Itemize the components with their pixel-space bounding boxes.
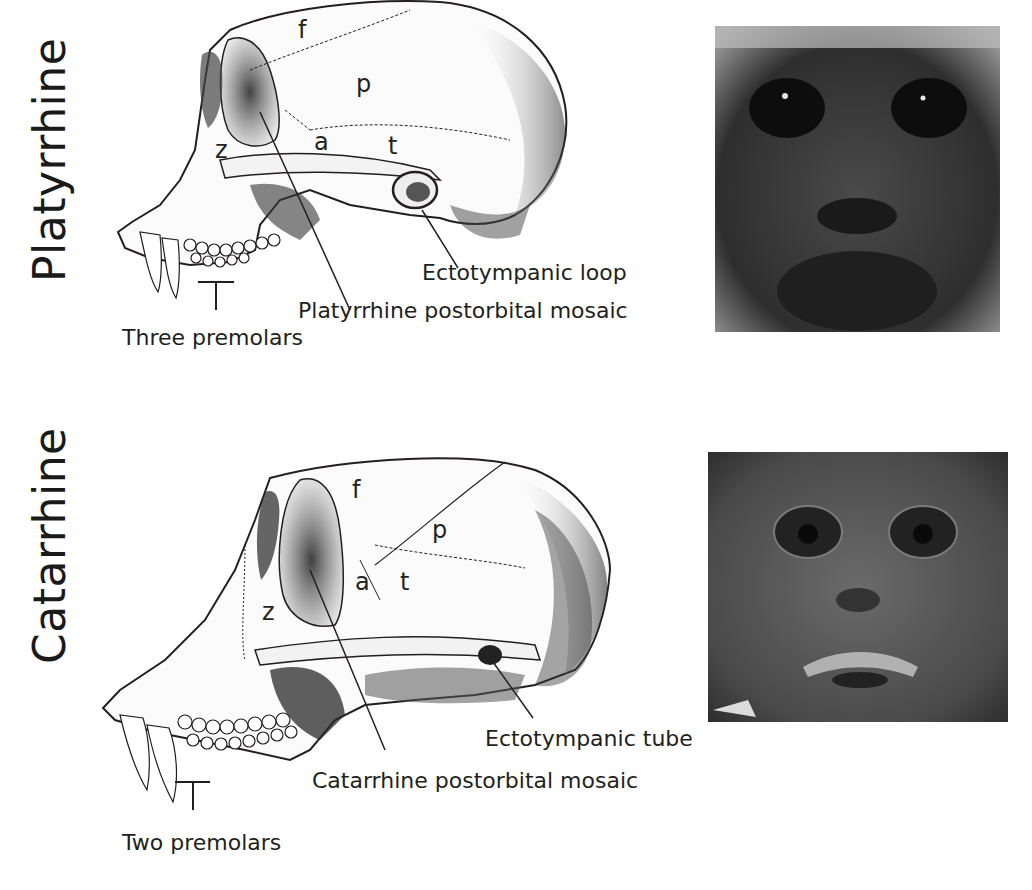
bone-label-parietal: p [356, 72, 371, 96]
bone-label-zygomatic: z [262, 600, 275, 624]
platyrrhine-group-label: Platyrrhine [24, 38, 75, 282]
callout-catarrhine-postorbital-mosaic: Catarrhine postorbital mosaic [312, 770, 638, 792]
platyrrhine-face-photo [715, 26, 1000, 332]
callout-platyrrhine-postorbital-mosaic: Platyrrhine postorbital mosaic [298, 300, 628, 322]
catarrhine-panel: Catarrhine [0, 420, 1032, 890]
platyrrhine-panel: Platyrrhine [0, 0, 1032, 420]
catarrhine-skull-illustration [95, 450, 620, 810]
bone-label-temporal: t [400, 570, 409, 594]
bone-label-zygomatic: z [215, 138, 228, 162]
catarrhine-face-photo [708, 452, 1008, 722]
callout-ectotympanic-loop: Ectotympanic loop [422, 262, 627, 284]
callout-ectotympanic-tube: Ectotympanic tube [485, 728, 693, 750]
bone-label-temporal: t [388, 134, 397, 158]
bone-label-parietal: p [432, 518, 447, 542]
bone-label-alisphenoid: a [355, 570, 370, 594]
callout-two-premolars: Two premolars [122, 832, 281, 854]
bone-label-alisphenoid: a [314, 130, 329, 154]
callout-three-premolars: Three premolars [122, 327, 303, 349]
bone-label-frontal: f [352, 478, 360, 502]
catarrhine-group-label: Catarrhine [24, 427, 75, 664]
bone-label-frontal: f [298, 18, 306, 42]
